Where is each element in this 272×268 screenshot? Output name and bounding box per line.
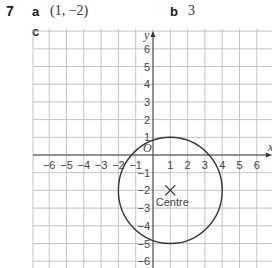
y-tick-label: 5 [144, 61, 150, 73]
x-tick-label: 2 [185, 159, 191, 171]
y-tick-label: −1 [137, 167, 150, 179]
y-tick-label: −6 [137, 255, 150, 267]
x-tick-label: −4 [78, 159, 91, 171]
x-tick-label: −3 [95, 159, 108, 171]
y-axis-arrow-icon [151, 31, 156, 37]
x-tick-label: 5 [236, 159, 242, 171]
x-axis-label: x [267, 140, 272, 154]
x-tick-label: 4 [219, 159, 225, 171]
y-tick-label: 3 [144, 96, 150, 108]
y-tick-label: −4 [137, 220, 150, 232]
y-tick-label: −3 [137, 202, 150, 214]
y-tick-label: 4 [144, 78, 150, 90]
y-tick-label: 2 [144, 114, 150, 126]
centre-label: Centre [156, 196, 189, 208]
x-tick-label: −5 [60, 159, 73, 171]
y-tick-label: −2 [137, 184, 150, 196]
y-tick-label: 6 [144, 43, 150, 55]
x-tick-label: 1 [167, 159, 173, 171]
y-axis-label: y [143, 28, 150, 42]
coordinate-graph: yxO−6−5−4−3−2−1123456654321−1−2−3−4−5−6C… [0, 0, 272, 268]
x-tick-label: 3 [202, 159, 208, 171]
x-tick-label: 6 [254, 159, 260, 171]
x-tick-label: −6 [43, 159, 56, 171]
